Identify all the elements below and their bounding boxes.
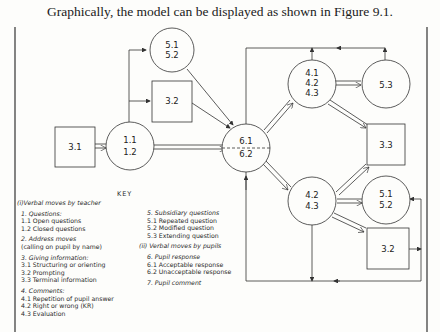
key-item: 4.3 Evaluation	[21, 310, 114, 318]
svg-text:3.2: 3.2	[381, 244, 395, 254]
svg-text:1.2: 1.2	[123, 147, 137, 157]
key-heading: 6. Pupil response	[147, 253, 231, 261]
key-pupil-heading: (ii) Verbal moves by pupils	[139, 242, 231, 250]
key-heading: 7. Pupil comment	[147, 279, 231, 287]
key-item: 6.1 Acceptable response	[147, 261, 231, 269]
svg-text:6.2: 6.2	[239, 149, 253, 159]
svg-text:5.2: 5.2	[379, 200, 393, 210]
key-item: 5.1 Repeated question	[147, 217, 231, 225]
svg-text:4.3: 4.3	[305, 201, 319, 211]
svg-text:4.2: 4.2	[305, 78, 319, 88]
svg-text:3.2: 3.2	[165, 96, 179, 106]
svg-text:5.1: 5.1	[379, 189, 393, 199]
key-item: 3.3 Terminal information	[21, 276, 114, 284]
key-item: 5.3 Extending question	[147, 232, 231, 240]
svg-text:1.1: 1.1	[123, 135, 137, 145]
key-item: (calling on pupil by name)	[21, 243, 114, 251]
svg-text:5.1: 5.1	[165, 40, 179, 50]
key-subsidiary-column: 5. Subsidiary questions 5.1 Repeated que…	[147, 209, 231, 286]
svg-text:5.2: 5.2	[165, 50, 179, 60]
key-teacher-heading: (i)Verbal moves by teacher	[17, 199, 114, 207]
key-teacher-column: (i)Verbal moves by teacher 1. Questions:…	[17, 199, 114, 317]
node-1-1-1-2	[106, 122, 154, 170]
key-item: 4.1 Repetition of pupil answer	[21, 295, 114, 303]
key-item: 3.1 Structuring or orienting	[21, 261, 114, 269]
key-item: 3.2 Prompting	[21, 269, 114, 277]
svg-text:4.3: 4.3	[305, 88, 319, 98]
key-item: 1.2 Closed questions	[21, 225, 114, 233]
key-heading: 5. Subsidiary questions	[147, 209, 231, 217]
key-heading: 1. Questions:	[21, 210, 114, 218]
key-heading: 2. Address moves	[21, 235, 114, 243]
key-heading: 4. Comments:	[21, 287, 114, 295]
key-item: 5.2 Modified question	[147, 224, 231, 232]
svg-text:6.1: 6.1	[239, 136, 253, 146]
key-heading: 3. Giving information:	[21, 254, 114, 262]
key-title: KEY	[117, 190, 132, 198]
key-item: 1.1 Open questions	[21, 217, 114, 225]
svg-text:3.3: 3.3	[379, 140, 393, 150]
key-item: 6.2 Unacceptable response	[147, 268, 231, 276]
svg-text:4.1: 4.1	[305, 68, 319, 78]
svg-text:3.1: 3.1	[68, 142, 82, 152]
svg-text:4.2: 4.2	[305, 190, 319, 200]
svg-text:5.3: 5.3	[379, 80, 393, 90]
key-item: 4.2 Right or wrong (KR)	[21, 302, 114, 310]
